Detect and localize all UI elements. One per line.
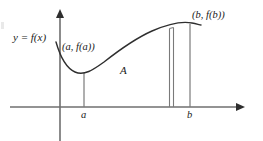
rect-top-edge (170, 28, 174, 29)
y-axis-arrowhead (56, 9, 64, 18)
y-axis (56, 9, 64, 141)
x-axis (10, 103, 245, 111)
x-tick-label-b: b (187, 110, 192, 121)
area-under-curve-figure: y = f(x) (a, f(a)) (b, f(b)) A a b (0, 0, 263, 141)
diagram-canvas (0, 0, 263, 141)
area-label: A (120, 65, 127, 76)
function-label: y = f(x) (13, 32, 46, 43)
x-tick-label-a: a (81, 110, 86, 121)
x-axis-arrowhead (236, 103, 245, 111)
point-a-label: (a, f(a)) (62, 42, 95, 53)
point-b-label: (b, f(b)) (192, 10, 225, 21)
representative-rectangle (170, 28, 174, 108)
